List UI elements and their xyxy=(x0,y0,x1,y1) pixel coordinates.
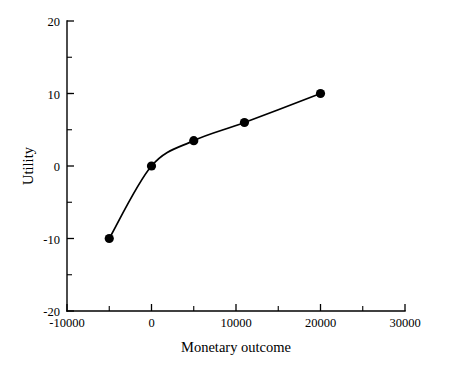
y-tick-label-0: 0 xyxy=(54,160,60,174)
x-tick-label-20000: 20000 xyxy=(305,316,336,330)
x-tick-label-30000: 30000 xyxy=(389,316,420,330)
y-tick-label-20: 20 xyxy=(48,15,61,29)
y-axis-title: Utility xyxy=(20,146,36,185)
x-tick-label-0: 0 xyxy=(148,316,154,330)
chart-figure: 20 10 0 -10 -20 -10000 0 10000 20000 300… xyxy=(0,0,449,369)
utility-function-chart: 20 10 0 -10 -20 -10000 0 10000 20000 300… xyxy=(0,0,449,369)
data-point-marker[interactable] xyxy=(105,234,114,243)
data-point-marker[interactable] xyxy=(240,118,249,127)
data-point-marker[interactable] xyxy=(316,89,325,98)
y-tick-label-10: 10 xyxy=(48,88,61,102)
y-tick-label-neg10: -10 xyxy=(43,233,60,247)
x-tick-label-10000: 10000 xyxy=(220,316,251,330)
data-point-marker[interactable] xyxy=(147,161,156,170)
x-axis-title: Monetary outcome xyxy=(181,339,291,355)
data-point-marker[interactable] xyxy=(189,136,198,145)
x-tick-label-neg10000: -10000 xyxy=(49,316,84,330)
